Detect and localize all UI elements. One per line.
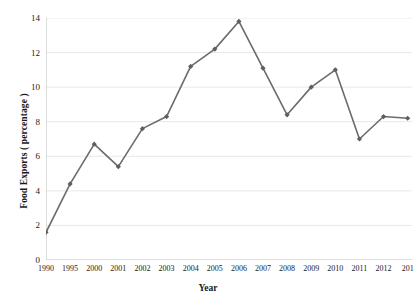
y-tick-label: 2 <box>14 220 40 230</box>
data-point-marker <box>405 116 410 121</box>
food-exports-line-chart: Food Exports ( percentage ) 02468101214 … <box>0 0 416 307</box>
y-tick-label: 6 <box>14 151 40 161</box>
chart-canvas <box>46 18 412 260</box>
y-tick-label: 4 <box>14 186 40 196</box>
y-tick-label: 12 <box>14 48 40 58</box>
y-tick-label: 14 <box>14 13 40 23</box>
data-series-line <box>46 21 408 232</box>
data-point-marker <box>164 114 169 119</box>
x-tick-label: 201 <box>388 264 416 273</box>
x-axis-title: Year <box>0 283 416 293</box>
plot-area <box>46 18 412 260</box>
y-tick-label: 10 <box>14 82 40 92</box>
y-tick-label: 8 <box>14 117 40 127</box>
